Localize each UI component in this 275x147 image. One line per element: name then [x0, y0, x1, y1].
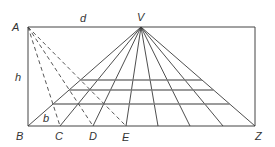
depth-lines [53, 80, 230, 104]
label-B: B [16, 130, 23, 142]
label-b: b [43, 112, 49, 124]
label-A: A [11, 21, 19, 33]
dashed-line-A-D [28, 27, 93, 126]
label-d: d [80, 12, 87, 24]
label-E: E [122, 131, 130, 143]
ray-line-6 [141, 27, 223, 126]
ray-line-7 [141, 27, 255, 126]
vanishing-rays [28, 27, 255, 126]
perspective-diagram: A d V h b B C D E Z [0, 0, 275, 147]
label-Z: Z [254, 130, 263, 142]
label-h: h [15, 71, 21, 83]
frame [28, 27, 255, 126]
label-D: D [89, 130, 97, 142]
diagram-canvas: A d V h b B C D E Z [0, 0, 275, 147]
label-C: C [55, 130, 63, 142]
ray-line-5 [141, 27, 190, 126]
ray-line-4 [141, 27, 158, 126]
label-V: V [137, 11, 146, 23]
